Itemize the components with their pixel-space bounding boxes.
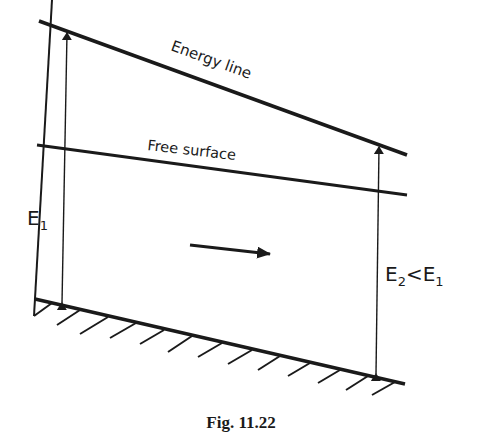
e1-dimension-arrow [62, 33, 67, 303]
energy-line-label: Energy line [169, 37, 254, 83]
e1-label: E1 [27, 206, 48, 233]
e2-dimension-arrow [376, 147, 379, 374]
figure-caption: Fig. 11.22 [206, 413, 275, 432]
free-surface-label: Free surface [147, 137, 237, 163]
e2-label: E2<E1 [385, 262, 444, 289]
flow-direction-arrow [190, 245, 270, 254]
figure-canvas: Energy line Free surface E1 E2<E1 Fig. 1… [0, 0, 483, 436]
open-channel-energy-diagram: Energy line Free surface E1 E2<E1 Fig. 1… [0, 0, 483, 436]
energy-line [39, 21, 407, 155]
channel-bed [35, 299, 405, 384]
